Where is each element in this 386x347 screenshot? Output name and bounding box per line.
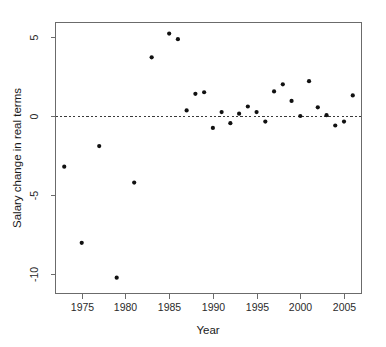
- plot-background: [0, 0, 386, 347]
- x-tick-label: 1985: [158, 301, 182, 313]
- data-point: [176, 37, 180, 41]
- data-point: [62, 165, 66, 169]
- data-point: [132, 180, 136, 184]
- data-point: [316, 105, 320, 109]
- x-axis-title: Year: [196, 324, 219, 336]
- data-point: [281, 82, 285, 86]
- data-point: [237, 112, 241, 116]
- x-tick-label: 1980: [114, 301, 138, 313]
- data-point: [342, 119, 346, 123]
- data-point: [220, 110, 224, 114]
- y-tick-label: 5: [28, 34, 40, 40]
- data-point: [324, 113, 328, 117]
- x-tick-label: 1975: [71, 301, 95, 313]
- x-tick-label: 1990: [202, 301, 226, 313]
- plot-canvas: 50-5-10 1975198019851990199520002005 Yea…: [0, 0, 386, 347]
- data-point: [150, 55, 154, 59]
- data-point: [254, 110, 258, 114]
- data-point: [167, 31, 171, 35]
- y-tick-label: 0: [28, 113, 40, 119]
- data-point: [307, 79, 311, 83]
- y-tick-label: -5: [28, 191, 40, 200]
- data-point: [115, 276, 119, 280]
- x-tick-label: 2000: [289, 301, 313, 313]
- data-point: [272, 89, 276, 93]
- data-point: [298, 114, 302, 118]
- data-point: [202, 90, 206, 94]
- data-point: [333, 123, 337, 127]
- data-point: [80, 241, 84, 245]
- y-axis-title: Salary change in real terms: [11, 88, 23, 228]
- data-point: [289, 99, 293, 103]
- data-point: [193, 92, 197, 96]
- data-point: [246, 104, 250, 108]
- data-point: [97, 144, 101, 148]
- scatter-plot-figure: 50-5-10 1975198019851990199520002005 Yea…: [0, 0, 386, 347]
- data-point: [263, 119, 267, 123]
- x-tick-label: 1995: [246, 301, 270, 313]
- data-point: [351, 93, 355, 97]
- data-point: [211, 126, 215, 130]
- data-point: [185, 108, 189, 112]
- x-tick-label: 2005: [333, 301, 357, 313]
- data-point: [228, 121, 232, 125]
- y-tick-label: -10: [28, 267, 40, 282]
